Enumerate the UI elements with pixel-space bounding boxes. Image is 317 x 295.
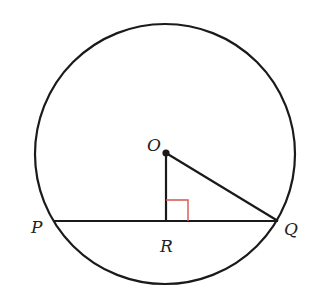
label-p: P [30, 217, 43, 237]
label-q: Q [284, 219, 298, 239]
right-angle-marker [166, 200, 188, 221]
segment-oq [166, 153, 278, 221]
circle-chord-diagram: O P R Q [0, 0, 317, 295]
center-point-o [162, 149, 169, 156]
label-r: R [159, 236, 173, 256]
label-o: O [147, 135, 161, 155]
